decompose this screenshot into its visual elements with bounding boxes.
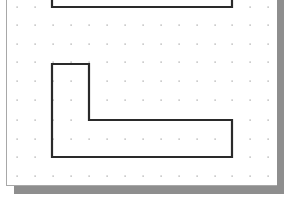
- grid-dot: [53, 44, 54, 45]
- grid-dot: [71, 81, 72, 82]
- grid-dot: [250, 81, 251, 82]
- grid-dot: [125, 81, 126, 82]
- grid-dot: [250, 157, 251, 158]
- grid-dot: [89, 62, 90, 63]
- grid-dot: [215, 176, 216, 177]
- grid-dot: [17, 7, 18, 8]
- grid-dot: [197, 100, 198, 101]
- grid-dot: [179, 139, 180, 140]
- grid-dot: [161, 81, 162, 82]
- grid-dot: [89, 25, 90, 26]
- grid-dot: [268, 62, 269, 63]
- grid-dot: [125, 100, 126, 101]
- grid-dot: [161, 100, 162, 101]
- grid-dot: [215, 81, 216, 82]
- grid-dot: [125, 62, 126, 63]
- grid-dot: [17, 25, 18, 26]
- grid-dot: [161, 25, 162, 26]
- grid-dot: [232, 62, 233, 63]
- shapes-layer[interactable]: [52, 0, 232, 157]
- grid-dot: [143, 176, 144, 177]
- grid-dot: [179, 44, 180, 45]
- grid-dot: [197, 44, 198, 45]
- grid-dot: [268, 157, 269, 158]
- grid-dot: [107, 25, 108, 26]
- grid-dot: [179, 62, 180, 63]
- grid-dot: [250, 176, 251, 177]
- top-rectangle[interactable]: [52, 0, 232, 7]
- grid-dot: [53, 62, 54, 63]
- dot-grid: [17, 7, 269, 177]
- grid-dot: [268, 44, 269, 45]
- grid-dot: [35, 25, 36, 26]
- drawing-viewport: [0, 0, 284, 198]
- grid-dot: [215, 44, 216, 45]
- grid-dot: [71, 139, 72, 140]
- grid-dot: [143, 100, 144, 101]
- grid-dot: [179, 100, 180, 101]
- grid-dot: [268, 120, 269, 121]
- grid-dot: [71, 176, 72, 177]
- grid-dot: [35, 120, 36, 121]
- grid-dot: [17, 120, 18, 121]
- grid-dot: [232, 25, 233, 26]
- grid-dot: [125, 25, 126, 26]
- grid-dot: [179, 25, 180, 26]
- grid-dot: [250, 44, 251, 45]
- grid-dot: [71, 25, 72, 26]
- l-shape[interactable]: [52, 64, 232, 157]
- grid-dot: [268, 100, 269, 101]
- grid-dot: [71, 120, 72, 121]
- grid-dot: [215, 139, 216, 140]
- grid-dot: [143, 44, 144, 45]
- grid-dot: [161, 44, 162, 45]
- grid-dot: [71, 62, 72, 63]
- grid-dot: [107, 62, 108, 63]
- grid-dot: [179, 176, 180, 177]
- grid-dot: [268, 139, 269, 140]
- grid-dot: [35, 44, 36, 45]
- grid-dot: [197, 62, 198, 63]
- grid-dot: [268, 25, 269, 26]
- grid-dot: [197, 25, 198, 26]
- grid-dot: [250, 139, 251, 140]
- grid-dot: [107, 176, 108, 177]
- grid-dot: [125, 44, 126, 45]
- grid-dot: [35, 157, 36, 158]
- grid-dot: [161, 62, 162, 63]
- grid-dot: [232, 100, 233, 101]
- grid-dot: [250, 62, 251, 63]
- grid-dot: [125, 139, 126, 140]
- grid-dot: [35, 7, 36, 8]
- grid-dot: [250, 7, 251, 8]
- grid-dot: [143, 139, 144, 140]
- grid-dot: [268, 7, 269, 8]
- grid-dot: [232, 176, 233, 177]
- grid-dot: [232, 81, 233, 82]
- grid-dot: [161, 176, 162, 177]
- grid-dot: [17, 176, 18, 177]
- grid-dot: [215, 62, 216, 63]
- grid-dot: [53, 25, 54, 26]
- grid-dot: [107, 81, 108, 82]
- grid-dot: [35, 81, 36, 82]
- grid-dot: [17, 62, 18, 63]
- grid-dot: [35, 139, 36, 140]
- grid-dot: [143, 62, 144, 63]
- grid-dot: [232, 44, 233, 45]
- grid-dot: [71, 44, 72, 45]
- grid-dot: [35, 62, 36, 63]
- grid-dot: [71, 100, 72, 101]
- grid-dot: [215, 25, 216, 26]
- drawing-canvas[interactable]: [0, 0, 284, 198]
- grid-dot: [89, 44, 90, 45]
- grid-dot: [268, 176, 269, 177]
- grid-dot: [107, 139, 108, 140]
- grid-dot: [17, 100, 18, 101]
- grid-dot: [143, 81, 144, 82]
- grid-dot: [250, 120, 251, 121]
- grid-dot: [17, 44, 18, 45]
- grid-dot: [17, 81, 18, 82]
- grid-dot: [250, 25, 251, 26]
- grid-dot: [107, 44, 108, 45]
